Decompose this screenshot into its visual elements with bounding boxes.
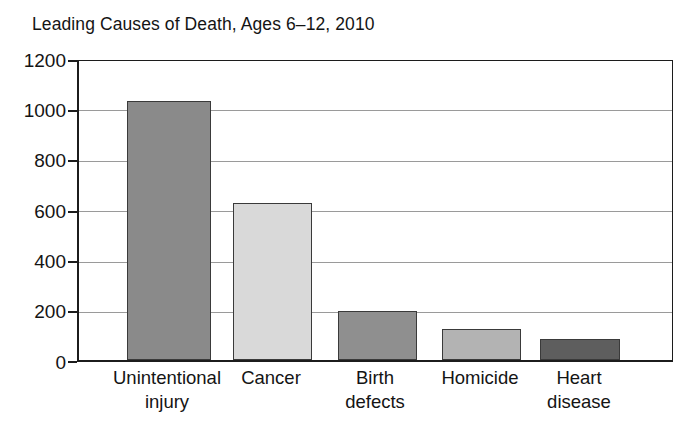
x-axis-tick-labels: Unintentional injury Cancer Birth defect…	[77, 366, 673, 436]
y-axis-tick-marks	[0, 0, 80, 439]
y-tick-mark-600	[68, 211, 77, 213]
bar-heart-disease[interactable]	[540, 339, 620, 360]
chart-title: Leading Causes of Death, Ages 6–12, 2010	[32, 14, 375, 35]
bar-chart-figure: Leading Causes of Death, Ages 6–12, 2010…	[0, 0, 688, 439]
y-tick-mark-0	[68, 361, 77, 363]
plot-area	[77, 60, 673, 362]
bar-cancer[interactable]	[233, 203, 312, 360]
x-label-line-1: Heart	[556, 367, 601, 388]
x-label-line-2: injury	[77, 390, 257, 414]
bar-birth-defects[interactable]	[338, 311, 417, 360]
bar-homicide[interactable]	[442, 329, 521, 360]
x-label-line-1: Cancer	[241, 367, 301, 388]
y-tick-mark-1200	[68, 60, 77, 62]
x-label-heart-disease: Heart disease	[509, 366, 649, 414]
x-label-line-2: disease	[509, 390, 649, 414]
y-tick-mark-400	[68, 261, 77, 263]
y-tick-mark-200	[68, 311, 77, 313]
y-tick-mark-1000	[68, 110, 77, 112]
x-label-line-2: defects	[305, 390, 445, 414]
bar-unintentional-injury[interactable]	[127, 101, 211, 360]
x-label-line-1: Birth	[356, 367, 394, 388]
x-label-line-1: Homicide	[441, 367, 518, 388]
y-tick-mark-800	[68, 160, 77, 162]
